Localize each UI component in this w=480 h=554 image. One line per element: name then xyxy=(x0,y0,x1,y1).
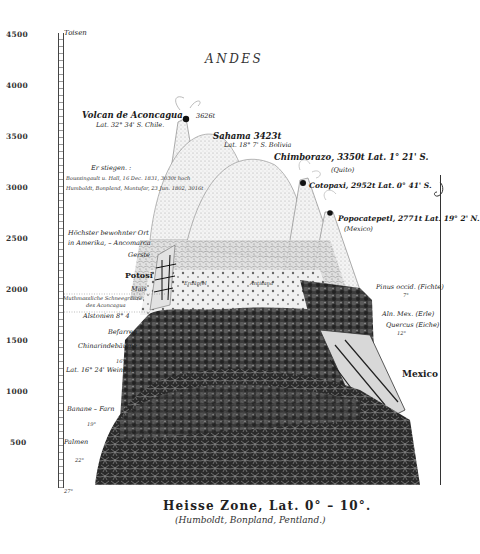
label-potosi: Potosi xyxy=(125,270,153,280)
label-snowline-2: des Aconcagua xyxy=(86,302,126,308)
label-deg22: 22° xyxy=(75,457,84,463)
label-chinarinde: Chinarindebäume xyxy=(78,342,137,350)
peak-aconcagua-lat: Lat. 32° 34' S. Chile. xyxy=(96,121,164,129)
peak-popocatepetl-name: Popocatepetl, 2771t Lat. 19° 2' N. xyxy=(338,214,480,223)
peak-chimborazo-region: (Quito) xyxy=(331,166,354,174)
label-deg19: 19° xyxy=(87,421,96,427)
peak-sahama-name: Sahama 3423t xyxy=(213,131,281,141)
label-pinus-deg: 7° xyxy=(403,292,409,298)
label-befarren: Befarren xyxy=(108,328,137,336)
label-pinus: Pinus occid. (Fichte) xyxy=(376,283,444,291)
label-lat-weinbau: Lat. 16° 24' Weinbau xyxy=(66,366,135,374)
label-snowline-1: Muthmassliche Schneegränze xyxy=(63,295,142,301)
label-palmen: Palmen xyxy=(64,438,88,446)
label-deg27: 27° xyxy=(64,488,73,494)
label-gerste: Gerste xyxy=(128,251,150,259)
caption-sources: (Humboldt, Bonpland, Pentland.) xyxy=(175,515,326,525)
peak-cotopaxi-name: Cotopaxi, 2952t Lat. 0° 41' S. xyxy=(309,181,432,190)
label-mexico: Mexico xyxy=(402,369,438,379)
peak-sahama-lat: Lat. 18° 7' S. Bolivia xyxy=(224,141,291,149)
peak-aconcagua-height: 3626t xyxy=(196,112,215,120)
peak-popocatepetl-region: (Mexico) xyxy=(344,225,373,233)
peak-aconcagua-name: Volcan de Aconcagua xyxy=(82,110,183,120)
label-boussingault: Boussingault u. Hall, 16 Dec. 1831, 3030… xyxy=(66,175,190,181)
label-humboldt: Humboldt, Bonpland, Montufar, 23 Jun. 18… xyxy=(66,185,203,191)
label-ersteigen: Er stiegen. : xyxy=(91,164,131,172)
label-mais: Mais xyxy=(131,285,147,293)
caption-title: Heisse Zone, Lat. 0° – 10°. xyxy=(163,499,371,513)
label-erdaepfel: Erdäpfel xyxy=(184,280,207,286)
label-quercus: Quercus (Eiche) xyxy=(386,321,439,329)
label-deg16: 16° xyxy=(116,358,125,364)
label-antisana: Antisana xyxy=(250,280,273,286)
label-bananen-farn: Banane – Farn xyxy=(67,405,114,413)
label-highest-place-1: Höchster bewohnter Ort xyxy=(68,229,149,237)
label-highest-place-2: in Amerika, – Ancomarca xyxy=(68,239,151,247)
label-quercus-deg: 12° xyxy=(397,330,406,336)
label-alnus: Aln. Mex. (Erle) xyxy=(382,310,434,318)
peak-chimborazo-name: Chimborazo, 3350t Lat. 1° 21' S. xyxy=(274,152,428,162)
label-alstonien: Alstonien 8° 4 xyxy=(83,312,130,320)
